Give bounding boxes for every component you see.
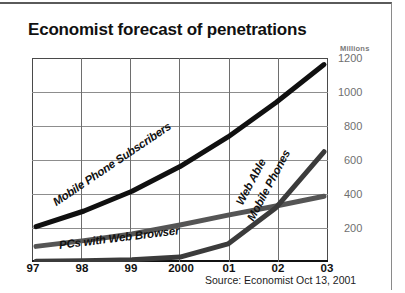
- x-tick-97: 97: [23, 262, 43, 274]
- y-tick-1000: 1000: [338, 86, 362, 98]
- y-tick-800: 800: [344, 120, 362, 132]
- chart-frame: Economist forecast of penetrations Milli…: [0, 2, 392, 290]
- y-tick-400: 400: [344, 188, 362, 200]
- x-tick-2000: 2000: [162, 262, 200, 274]
- y-tick-1200: 1200: [338, 52, 362, 64]
- x-tick-99: 99: [121, 262, 141, 274]
- x-tick-01: 01: [219, 262, 239, 274]
- x-tick-02: 02: [268, 262, 288, 274]
- x-tick-03: 03: [317, 262, 337, 274]
- source-note: Source: Economist Oct 13, 2001: [205, 274, 356, 286]
- plot-area: Mobile Phone Subscribers Web Able Mobile…: [32, 58, 328, 262]
- y-tick-600: 600: [344, 154, 362, 166]
- y-tick-200: 200: [344, 222, 362, 234]
- x-tick-98: 98: [72, 262, 92, 274]
- chart-title: Economist forecast of penetrations: [28, 20, 368, 40]
